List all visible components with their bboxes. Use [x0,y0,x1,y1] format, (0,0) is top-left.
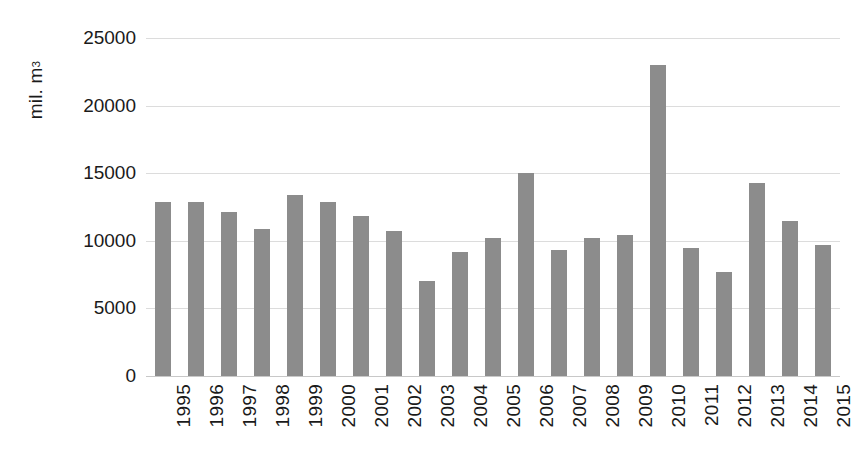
x-axis-tick-labels: 1995199619971998199920002001200220032004… [146,376,840,460]
x-axis-tick-label: 2013 [767,384,789,460]
x-axis-tick-label: 2011 [701,384,723,460]
x-axis-tick-label: 2014 [800,384,822,460]
bar [617,235,633,376]
bar [716,272,732,376]
x-axis-tick-label: 2006 [536,384,558,460]
x-axis-tick-label: 2009 [635,384,657,460]
bar [815,245,831,376]
bar [188,202,204,376]
y-axis-tick-label: 5000 [50,297,136,319]
bar [254,229,270,376]
bar [650,65,666,376]
x-axis-tick-label: 2001 [371,384,393,460]
y-axis-tick-labels: 0500010000150002000025000 [50,0,136,460]
bar [749,183,765,376]
x-axis-tick-label: 2000 [338,384,360,460]
x-axis-tick-label: 2005 [503,384,525,460]
bar-chart: mil. m3 0500010000150002000025000 199519… [0,0,855,460]
x-axis-tick-label: 1997 [239,384,261,460]
y-axis-tick-label: 15000 [50,162,136,184]
bar [782,221,798,376]
y-axis-title-text: mil. m [25,67,47,119]
bar [155,202,171,376]
bar [584,238,600,376]
y-axis-tick-label: 10000 [50,230,136,252]
bar [551,250,567,376]
x-axis-tick-label: 2007 [569,384,591,460]
bar [452,252,468,376]
bar [683,248,699,376]
plot-area [146,38,840,376]
x-axis-tick-label: 2003 [437,384,459,460]
bar [386,231,402,376]
bar [221,212,237,376]
y-axis-tick-label: 0 [50,365,136,387]
y-axis-tick-label: 25000 [50,27,136,49]
bar [287,195,303,376]
bar [518,173,534,376]
x-axis-tick-label: 2015 [833,384,855,460]
bar [320,202,336,376]
y-axis-tick-label: 20000 [50,95,136,117]
x-axis-tick-label: 1998 [272,384,294,460]
x-axis-tick-label: 1999 [305,384,327,460]
bar [419,281,435,376]
x-axis-tick-label: 2002 [404,384,426,460]
x-axis-tick-label: 1996 [206,384,228,460]
x-axis-tick-label: 2012 [734,384,756,460]
x-axis-tick-label: 1995 [173,384,195,460]
bar [485,238,501,376]
x-axis-tick-label: 2004 [470,384,492,460]
bar [353,216,369,376]
x-axis-tick-label: 2008 [602,384,624,460]
bars-layer [146,38,840,376]
x-axis-tick-label: 2010 [668,384,690,460]
